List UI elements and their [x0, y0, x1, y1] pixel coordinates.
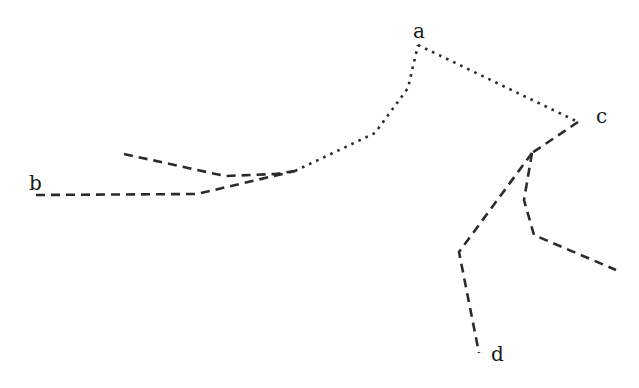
- path-a-to-c: [418, 45, 578, 122]
- path-upper-stub: [124, 154, 295, 176]
- path-fork-to-right: [524, 153, 616, 270]
- path-junction-to-a: [295, 45, 418, 171]
- node-label-d: d: [491, 342, 504, 366]
- path-c-to-fork: [532, 122, 578, 153]
- diagram-canvas: a b c d: [0, 0, 639, 388]
- node-label-c: c: [596, 104, 607, 128]
- path-b-lower: [36, 171, 295, 195]
- node-label-a: a: [413, 19, 425, 43]
- path-fork-to-d: [459, 153, 532, 353]
- node-label-b: b: [29, 171, 42, 195]
